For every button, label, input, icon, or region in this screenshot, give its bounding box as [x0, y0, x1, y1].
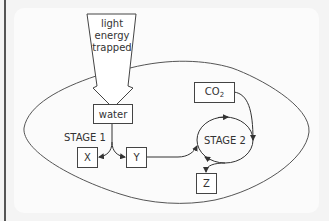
z-node-label: Z: [203, 178, 210, 189]
water-node: water: [93, 104, 133, 124]
light-energy-label-line-3: trapped: [92, 42, 132, 54]
diagram-shapes: [0, 0, 329, 221]
light-energy-label: light energy trapped: [92, 18, 132, 54]
z-node: Z: [196, 173, 217, 194]
stage1-label: STAGE 1: [64, 132, 106, 143]
light-energy-label-line-2: energy: [92, 30, 132, 42]
light-energy-label-line-1: light: [92, 18, 132, 30]
co2-node: CO2: [194, 82, 235, 103]
stage2-label: STAGE 2: [200, 135, 250, 146]
diagram-canvas: light energy trapped water STAGE 1 X Y C…: [0, 0, 329, 221]
y-to-stage2-line: [146, 146, 197, 157]
branch-to-x: [99, 142, 112, 157]
branch-to-y: [112, 142, 125, 157]
water-node-label: water: [99, 109, 128, 120]
co2-node-label: CO2: [205, 86, 224, 99]
stage2-to-z-line: [206, 163, 225, 172]
x-node-label: X: [84, 152, 91, 163]
co2-to-stage2-line: [234, 92, 253, 140]
co2-main: CO: [205, 86, 220, 97]
y-node-label: Y: [133, 152, 139, 163]
x-node: X: [77, 147, 98, 168]
co2-subscript: 2: [220, 91, 224, 99]
y-node: Y: [126, 147, 147, 168]
cycle-arrow-top: [218, 117, 228, 118]
